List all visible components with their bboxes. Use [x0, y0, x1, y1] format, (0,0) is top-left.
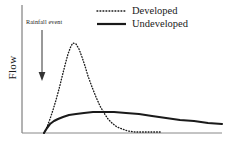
rainfall-event-arrow: [39, 30, 46, 81]
rainfall-event-label: Rainfall event: [26, 19, 62, 25]
legend-label-undeveloped: Undeveloped: [132, 19, 188, 30]
arrow-head: [39, 72, 46, 81]
hydrograph-figure: Flow Rainfall event Developed Undevelope…: [0, 0, 230, 149]
legend-label-developed: Developed: [132, 6, 177, 17]
y-axis-label: Flow: [7, 48, 18, 88]
curve-undeveloped: [44, 112, 222, 133]
curve-developed: [44, 43, 162, 133]
